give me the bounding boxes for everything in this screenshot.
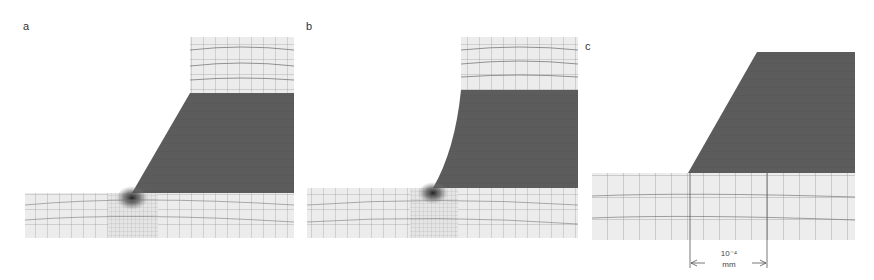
panel-a	[25, 37, 294, 238]
scale-bar-unit: mm	[709, 260, 749, 269]
panel-label-c: c	[585, 40, 591, 52]
panel-a-substrate-mesh	[25, 193, 294, 238]
scale-bar-value: 10⁻⁴	[709, 249, 749, 258]
panel-b-upper-mesh	[461, 37, 578, 90]
panel-b-film	[433, 90, 578, 188]
panel-c-film	[688, 52, 855, 173]
panel-b	[307, 37, 578, 238]
figure-canvas	[0, 0, 874, 280]
panel-c-substrate-mesh	[592, 173, 855, 240]
panel-a-upper-mesh	[190, 37, 294, 93]
panel-c	[592, 52, 855, 268]
panel-a-corner-refinement	[116, 186, 148, 210]
panel-label-b: b	[306, 20, 312, 32]
panel-a-film	[132, 93, 294, 193]
panel-label-a: a	[23, 20, 29, 32]
